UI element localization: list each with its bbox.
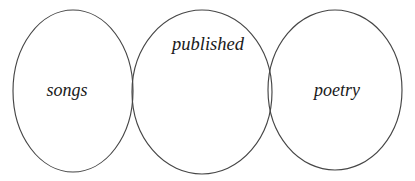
venn-label-published: published — [170, 34, 245, 54]
venn-label-poetry: poetry — [312, 80, 360, 100]
venn-diagram-canvas: songs published poetry — [0, 0, 415, 181]
venn-label-songs: songs — [46, 80, 87, 100]
venn-diagram-svg: songs published poetry — [0, 0, 415, 181]
